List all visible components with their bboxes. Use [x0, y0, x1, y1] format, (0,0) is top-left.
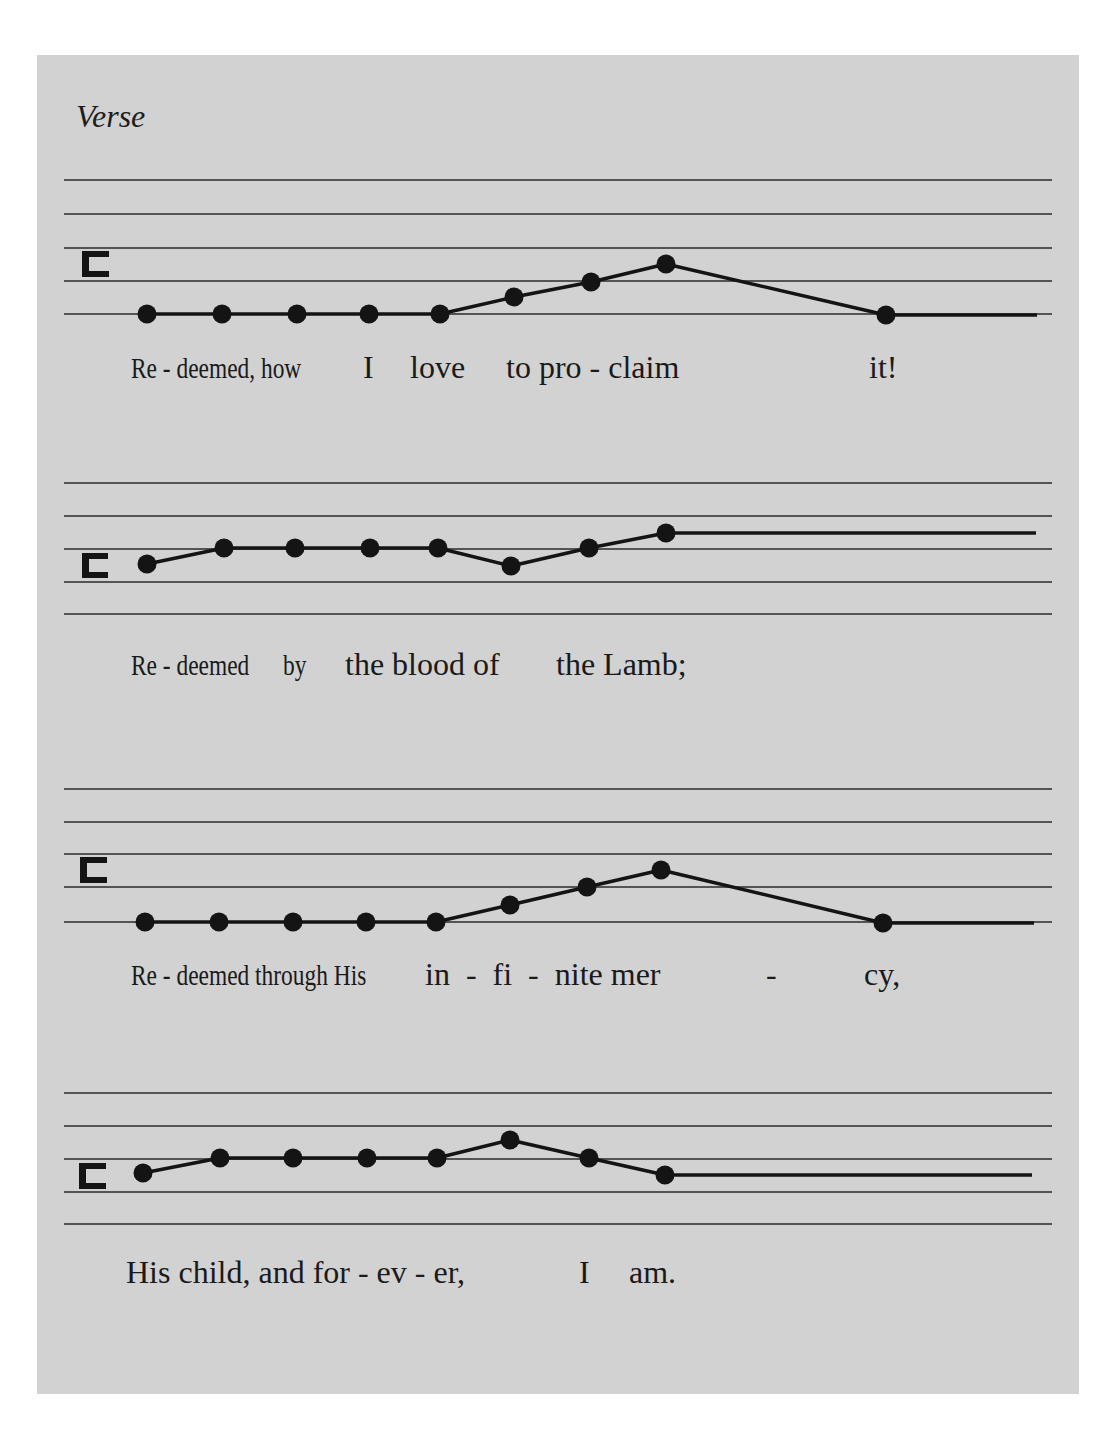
c-clef-icon: [82, 553, 108, 578]
lyric-syllables: am.: [629, 1256, 676, 1288]
lyric-syllables: -: [766, 958, 777, 990]
note-dot: [138, 555, 157, 574]
note-dot: [215, 539, 234, 558]
note-dot: [138, 305, 157, 324]
note-dot: [358, 1149, 377, 1168]
note-dot: [874, 914, 893, 933]
c-clef-icon: [82, 251, 109, 277]
melody-segment: [591, 264, 666, 282]
c-clef-icon: [80, 857, 107, 883]
melody-segment: [510, 887, 587, 905]
note-dot: [657, 255, 676, 274]
note-dot: [286, 539, 305, 558]
lyric-syllables: cy,: [864, 958, 900, 990]
melody-segment: [436, 905, 510, 922]
melody-segment: [510, 1140, 589, 1158]
note-dot: [360, 305, 379, 324]
lyric-syllables: love: [410, 351, 465, 383]
note-dot: [284, 913, 303, 932]
melody-segment: [437, 1140, 510, 1158]
note-dot: [580, 539, 599, 558]
lyric-syllables: by: [283, 650, 306, 680]
c-clef-icon: [79, 1163, 106, 1189]
lyric-syllables: I: [363, 351, 374, 383]
note-dot: [429, 539, 448, 558]
note-dot: [361, 539, 380, 558]
note-dot: [582, 273, 601, 292]
melody-segment: [661, 870, 883, 923]
lyric-syllables: Re - deemed, how: [131, 353, 301, 383]
note-dot: [501, 1131, 520, 1150]
note-dot: [505, 288, 524, 307]
note-dot: [502, 557, 521, 576]
note-dot: [284, 1149, 303, 1168]
note-dot: [652, 861, 671, 880]
note-dot: [134, 1164, 153, 1183]
melody-segment: [514, 282, 591, 297]
note-dot: [578, 878, 597, 897]
melody-segment: [589, 533, 666, 548]
melody-segment: [147, 548, 224, 564]
lyric-syllables: it!: [869, 351, 897, 383]
music-staves: [0, 0, 1114, 1445]
melody-segment: [143, 1158, 220, 1173]
lyric-syllables: the Lamb;: [556, 648, 687, 680]
melody-segment: [440, 297, 514, 314]
note-dot: [357, 913, 376, 932]
note-dot: [656, 1166, 675, 1185]
note-dot: [428, 1149, 447, 1168]
melody-segment: [589, 1158, 665, 1175]
note-dot: [136, 913, 155, 932]
note-dot: [210, 913, 229, 932]
lyric-syllables: Re - deemed through His: [131, 960, 366, 990]
lyric-syllables: in - fi - nite mer: [425, 958, 660, 990]
melody-segment: [587, 870, 661, 887]
note-dot: [657, 524, 676, 543]
melody-segment: [666, 264, 886, 315]
note-dot: [501, 896, 520, 915]
note-dot: [877, 306, 896, 325]
melody-segment: [511, 548, 589, 566]
staff-2: [64, 483, 1052, 614]
note-dot: [213, 305, 232, 324]
lyric-syllables: the blood of: [345, 648, 500, 680]
note-dot: [580, 1149, 599, 1168]
staff-1: [64, 180, 1052, 325]
lyric-syllables: His child, and for - ev - er,: [126, 1256, 465, 1288]
staff-3: [64, 789, 1052, 933]
lyric-syllables: I: [579, 1256, 590, 1288]
note-dot: [431, 305, 450, 324]
note-dot: [288, 305, 307, 324]
note-dot: [427, 913, 446, 932]
lyric-syllables: to pro - claim: [506, 351, 679, 383]
melody-segment: [438, 548, 511, 566]
note-dot: [211, 1149, 230, 1168]
staff-4: [64, 1093, 1052, 1224]
lyric-syllables: Re - deemed: [131, 650, 249, 680]
